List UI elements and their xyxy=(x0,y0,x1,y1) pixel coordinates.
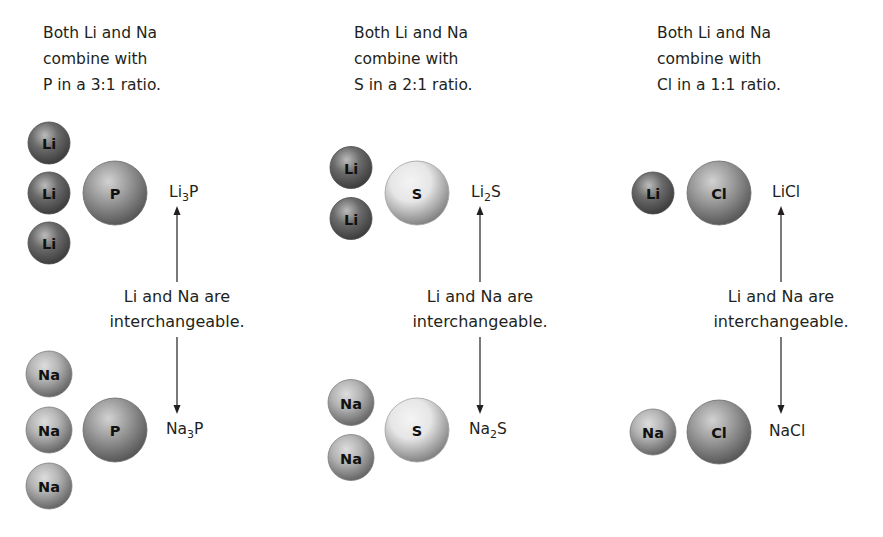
panel-3-top-formula: LiCl xyxy=(772,183,800,201)
note-line: Li and Na are xyxy=(701,284,861,309)
panel-1-top-li-atom-label: Li xyxy=(42,186,56,202)
panel-1-caption: Both Li and Na combine with P in a 3:1 r… xyxy=(43,20,161,98)
panel-2-bottom-formula: Na2S xyxy=(469,420,507,438)
panel-1-top-formula: Li3P xyxy=(169,183,198,201)
caption-line: combine with xyxy=(354,46,473,72)
panel-1-bottom-na-atom-label: Na xyxy=(38,423,60,439)
formula-base: LiCl xyxy=(772,183,800,201)
caption-line: combine with xyxy=(43,46,161,72)
note-line: Li and Na are xyxy=(400,284,560,309)
panel-1-interchangeable-note: Li and Na are interchangeable. xyxy=(97,284,257,334)
panel-2-top-li-atom-label: Li xyxy=(344,212,358,228)
caption-line: Both Li and Na xyxy=(43,20,161,46)
panel-1-bottom-na-atom-label: Na xyxy=(38,367,60,383)
formula-tail: S xyxy=(497,420,507,438)
panel-2-up-arrow xyxy=(477,206,484,282)
panel-1-up-arrow-head xyxy=(174,206,181,215)
formula-base: Na xyxy=(166,420,187,438)
panel-2-interchangeable-note: Li and Na are interchangeable. xyxy=(400,284,560,334)
panel-1-top-p-atom-label: P xyxy=(110,186,121,202)
note-line: interchangeable. xyxy=(97,309,257,334)
formula-tail: P xyxy=(189,183,198,201)
panel-2-top-s-atom-label: S xyxy=(412,186,422,202)
formula-base: NaCl xyxy=(769,422,805,440)
formula-subscript: 2 xyxy=(484,191,491,204)
panel-2-bottom-na-atom-label: Na xyxy=(340,451,362,467)
panel-3-bottom-formula: NaCl xyxy=(769,422,805,440)
caption-line: Cl in a 1:1 ratio. xyxy=(657,72,781,98)
panel-3-interchangeable-note: Li and Na are interchangeable. xyxy=(701,284,861,334)
caption-line: Both Li and Na xyxy=(657,20,781,46)
panel-3-top-cl-atom-label: Cl xyxy=(711,186,727,202)
panel-3-down-arrow-head xyxy=(778,405,785,414)
panel-1-down-arrow xyxy=(174,337,181,414)
panel-1-up-arrow xyxy=(174,206,181,282)
panel-3-caption: Both Li and Na combine with Cl in a 1:1 … xyxy=(657,20,781,98)
caption-line: S in a 2:1 ratio. xyxy=(354,72,473,98)
panel-3-bottom-cl-atom-label: Cl xyxy=(711,425,727,441)
panel-1-down-arrow-head xyxy=(174,405,181,414)
note-line: Li and Na are xyxy=(97,284,257,309)
note-line: interchangeable. xyxy=(400,309,560,334)
caption-line: combine with xyxy=(657,46,781,72)
note-line: interchangeable. xyxy=(701,309,861,334)
panel-1-top-li-atom-label: Li xyxy=(42,236,56,252)
panel-2-down-arrow xyxy=(477,337,484,414)
panel-2-top-formula: Li2S xyxy=(471,183,501,201)
panel-2-down-arrow-head xyxy=(477,405,484,414)
caption-line: Both Li and Na xyxy=(354,20,473,46)
panel-1-top-li-atom-label: Li xyxy=(42,136,56,152)
panel-1-bottom-p-atom-label: P xyxy=(110,423,121,439)
panel-2-top-li-atom-label: Li xyxy=(344,161,358,177)
formula-tail: S xyxy=(491,183,501,201)
panel-1-bottom-formula: Na3P xyxy=(166,420,203,438)
formula-base: Li xyxy=(169,183,182,201)
caption-line: P in a 3:1 ratio. xyxy=(43,72,161,98)
formula-base: Li xyxy=(471,183,484,201)
panel-2-caption: Both Li and Na combine with S in a 2:1 r… xyxy=(354,20,473,98)
panel-2-bottom-na-atom-label: Na xyxy=(340,396,362,412)
panel-2-up-arrow-head xyxy=(477,206,484,215)
formula-subscript: 3 xyxy=(182,191,189,204)
panel-3-top-li-atom-label: Li xyxy=(646,186,660,202)
formula-tail: P xyxy=(194,420,203,438)
formula-base: Na xyxy=(469,420,490,438)
panel-3-down-arrow xyxy=(778,337,785,414)
panel-2-bottom-s-atom-label: S xyxy=(412,423,422,439)
panel-1-bottom-na-atom-label: Na xyxy=(38,479,60,495)
panel-3-bottom-na-atom-label: Na xyxy=(642,425,664,441)
panel-3-up-arrow xyxy=(778,206,785,282)
panel-3-up-arrow-head xyxy=(778,206,785,215)
